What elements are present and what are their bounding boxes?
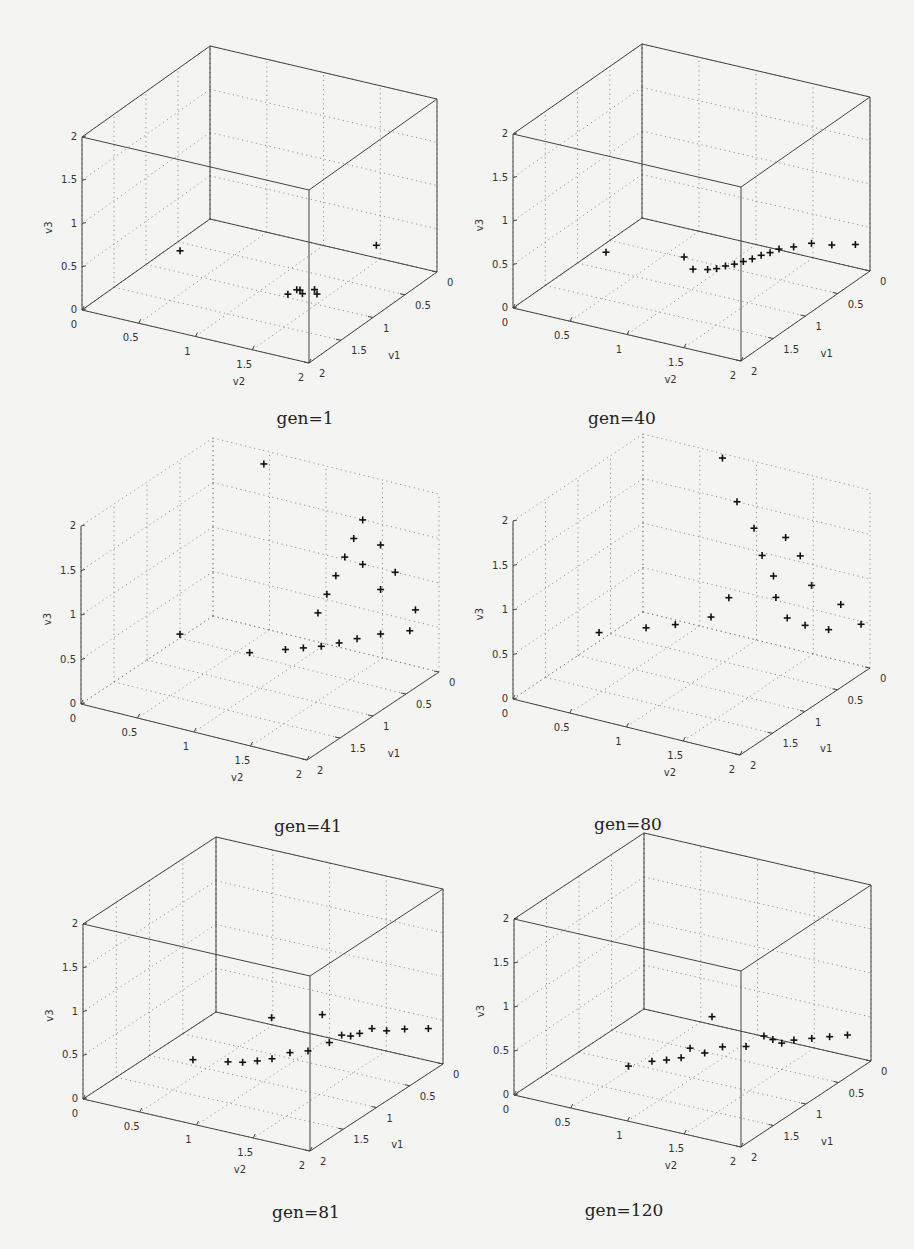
v1-tick-label: 2	[320, 1156, 326, 1167]
v3-tick-label: 0	[502, 302, 508, 313]
box-edge	[644, 833, 871, 885]
tick-mark	[801, 1103, 806, 1104]
tick-mark	[736, 360, 741, 361]
v3-tick-label: 0	[71, 304, 77, 315]
v1-tick-label: 0	[449, 677, 455, 688]
box-edge	[741, 97, 870, 187]
v2-tick-label: 0.5	[554, 722, 570, 733]
tick-mark	[305, 1150, 310, 1151]
figure: 0000.50.50.51111.51.51.5222v3v2v1gen=100…	[0, 0, 914, 1249]
v1-axis-label: v1	[820, 743, 832, 754]
box-edge	[513, 134, 741, 187]
v1-axis-label: v1	[388, 748, 400, 759]
v3-tick-label: 1	[70, 609, 76, 620]
box-edge	[216, 1012, 443, 1064]
v1-tick-label: 0.5	[420, 1091, 436, 1102]
v3-tick-label: 1.5	[60, 565, 76, 576]
data-point-marker	[359, 516, 366, 523]
v2-tick-label: 0	[72, 1108, 78, 1119]
v1-tick-label: 0.5	[848, 299, 864, 310]
data-point-marker	[359, 561, 366, 568]
v2-tick-label: 0.5	[123, 332, 139, 343]
v1-tick-label: 2	[751, 366, 757, 377]
data-point-marker	[392, 569, 399, 576]
v1-tick-label: 1.5	[350, 743, 366, 754]
v3-tick-label: 0.5	[60, 654, 76, 665]
gridline	[83, 968, 216, 1055]
data-point-marker	[284, 291, 291, 298]
panel-gen-120: 0000.50.50.51111.51.51.5222v3v2v1gen=120	[475, 833, 887, 1220]
data-point-marker	[837, 601, 844, 608]
gridline	[213, 572, 439, 628]
gridline	[578, 263, 806, 316]
tick-mark	[513, 264, 517, 265]
panel-caption: gen=1	[277, 408, 334, 428]
v2-tick-label: 2	[298, 372, 304, 383]
box-edge	[513, 44, 642, 134]
v2-tick-label: 2	[730, 370, 736, 381]
tick-mark	[197, 1121, 199, 1125]
gridline	[210, 133, 437, 186]
v1-axis-label: v1	[391, 1139, 403, 1150]
v2-tick-label: 1.5	[235, 755, 251, 766]
v1-tick-label: 1	[816, 1109, 822, 1120]
v1-tick-label: 1	[816, 321, 822, 332]
tick-mark	[684, 1130, 686, 1134]
v3-tick-label: 0.5	[62, 1049, 78, 1060]
v2-tick-label: 1.5	[668, 1143, 684, 1154]
data-point-marker	[350, 535, 357, 542]
data-point-marker	[341, 554, 348, 561]
tick-mark	[83, 1054, 87, 1055]
gridline	[114, 682, 340, 738]
v2-tick-label: 1	[616, 1130, 622, 1141]
tick-mark	[866, 1060, 871, 1061]
data-point-marker	[767, 249, 774, 256]
panel-caption: gen=41	[274, 816, 342, 836]
gridline	[570, 231, 699, 321]
box-edge	[210, 219, 437, 272]
tick-mark	[400, 294, 405, 295]
gridline	[643, 568, 870, 624]
data-point-marker	[770, 573, 777, 580]
v3-axis-label: v3	[474, 219, 485, 231]
v1-tick-label: 1	[383, 721, 389, 732]
gridline	[81, 483, 213, 571]
v3-tick-label: 0	[72, 1093, 78, 1104]
gridline	[570, 626, 700, 713]
tick-mark	[432, 271, 437, 272]
data-point-marker	[719, 1043, 726, 1050]
data-point-marker	[663, 1056, 670, 1063]
v2-tick-label: 0	[70, 713, 76, 724]
v2-tick-label: 1	[616, 344, 622, 355]
data-point-marker	[260, 460, 267, 467]
box-edge	[82, 219, 210, 310]
data-point-marker	[377, 542, 384, 549]
tick-mark	[81, 525, 85, 526]
data-point-marker	[826, 1033, 833, 1040]
panel-caption: gen=80	[594, 814, 662, 834]
gridline	[81, 527, 213, 615]
v3-tick-label: 0.5	[492, 649, 508, 660]
data-point-marker	[338, 1032, 345, 1039]
box-edge	[741, 885, 871, 971]
panel-gen-81: 0000.50.50.51111.51.51.5222v3v2v1gen=81	[44, 837, 459, 1222]
box-edge	[83, 1012, 216, 1099]
v1-tick-label: 0	[453, 1069, 459, 1080]
v3-axis-label: v3	[43, 221, 54, 233]
data-point-marker	[377, 586, 384, 593]
v3-tick-label: 1.5	[492, 172, 508, 183]
data-point-marker	[852, 241, 859, 248]
gridline	[210, 89, 437, 142]
panel-caption: gen=40	[588, 408, 656, 428]
box-edge	[82, 137, 309, 190]
tick-mark	[83, 967, 87, 968]
gridline	[612, 1031, 839, 1083]
v2-tick-label: 0.5	[554, 330, 570, 341]
gridline	[644, 921, 871, 973]
tick-mark	[736, 1146, 741, 1147]
v2-tick-label: 2	[729, 764, 735, 775]
tick-mark	[768, 732, 773, 733]
data-point-marker	[268, 1014, 275, 1021]
v3-tick-label: 0.5	[493, 1045, 509, 1056]
tick-mark	[251, 742, 253, 746]
